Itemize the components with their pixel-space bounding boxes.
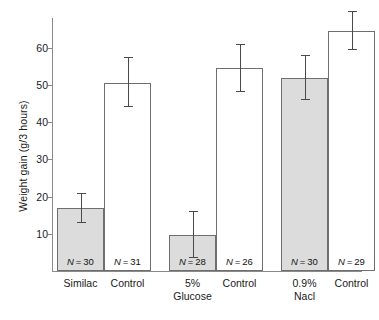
error-bar-4 xyxy=(305,55,306,100)
error-cap-upper xyxy=(301,55,310,56)
bar-1: N = 31 xyxy=(104,83,151,271)
bar-n-label: N = 30 xyxy=(282,256,327,267)
y-tick-label: 10 xyxy=(36,228,48,240)
bar-4: N = 30 xyxy=(281,78,328,271)
x-category-label-5: Control xyxy=(320,277,379,290)
x-category-label-3: Control xyxy=(208,277,271,290)
error-bar-0 xyxy=(81,193,82,223)
y-tick-mark xyxy=(48,85,53,86)
y-tick-label: 20 xyxy=(36,191,48,203)
y-tick-mark xyxy=(48,197,53,198)
error-cap-lower xyxy=(236,91,245,92)
y-tick-label: 50 xyxy=(36,79,48,91)
y-tick-mark xyxy=(48,234,53,235)
error-cap-lower xyxy=(348,49,357,50)
bar-3: N = 26 xyxy=(216,68,263,271)
error-cap-lower xyxy=(124,106,133,107)
error-bar-5 xyxy=(352,11,353,50)
error-cap-upper xyxy=(189,211,198,212)
error-cap-upper xyxy=(77,193,86,194)
error-cap-lower xyxy=(301,99,310,100)
y-tick-label: 40 xyxy=(36,116,48,128)
x-axis-line xyxy=(52,271,362,272)
error-bar-1 xyxy=(128,57,129,107)
bar-5: N = 29 xyxy=(328,31,375,271)
y-axis-label: Weight gain (g/3 hours) xyxy=(17,71,29,241)
error-bar-3 xyxy=(240,44,241,92)
y-tick-label: 60 xyxy=(36,42,48,54)
error-cap-lower xyxy=(189,257,198,258)
y-tick-label: 30 xyxy=(36,153,48,165)
plot-area: 102030405060 N = 30N = 31N = 28N = 26N =… xyxy=(52,18,362,272)
bar-n-label: N = 29 xyxy=(329,256,374,267)
error-bar-2 xyxy=(193,211,194,258)
y-tick-mark xyxy=(48,122,53,123)
x-category-label-1: Control xyxy=(96,277,159,290)
y-tick-mark xyxy=(48,48,53,49)
error-cap-upper xyxy=(348,11,357,12)
bar-n-label: N = 31 xyxy=(105,256,150,267)
error-cap-upper xyxy=(124,57,133,58)
error-cap-upper xyxy=(236,44,245,45)
bar-n-label: N = 26 xyxy=(217,256,262,267)
y-tick-mark xyxy=(48,159,53,160)
bar-n-label: N = 30 xyxy=(58,256,103,267)
error-cap-lower xyxy=(77,222,86,223)
